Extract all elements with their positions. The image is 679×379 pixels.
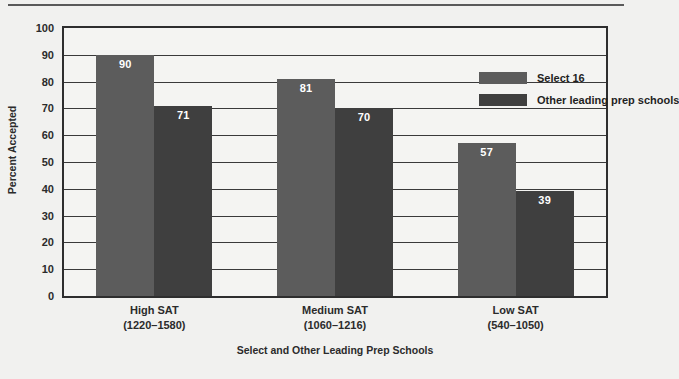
bar-value-label: 90 xyxy=(96,58,154,70)
bar: 70 xyxy=(335,108,393,296)
x-axis-category-label: High SAT(1220–1580) xyxy=(64,303,245,333)
x-axis-category-label: Low SAT(540–1050) xyxy=(425,303,606,333)
y-axis-tick-label: 0 xyxy=(48,290,54,302)
legend-label: Other leading prep schools xyxy=(537,94,679,106)
legend-item: Select 16 xyxy=(479,69,669,86)
category-sublabel: (1220–1580) xyxy=(64,318,245,333)
y-axis-tick-label: 80 xyxy=(42,76,54,88)
bar: 71 xyxy=(154,106,212,296)
category-name: High SAT xyxy=(130,304,179,316)
legend-item: Other leading prep schools xyxy=(479,91,669,108)
y-axis-tick-label: 50 xyxy=(42,156,54,168)
category-sublabel: (1060–1216) xyxy=(245,318,426,333)
y-axis-tick-label: 100 xyxy=(36,22,54,34)
legend-label: Select 16 xyxy=(537,72,585,84)
y-axis-title: Percent Accepted xyxy=(6,90,18,210)
bar: 39 xyxy=(516,191,574,296)
y-axis-tick-label: 20 xyxy=(42,236,54,248)
bar-value-label: 81 xyxy=(277,82,335,94)
x-axis-category-labels: High SAT(1220–1580)Medium SAT(1060–1216)… xyxy=(62,303,608,343)
bar-value-label: 39 xyxy=(516,194,574,206)
bar-value-label: 71 xyxy=(154,109,212,121)
category-name: Medium SAT xyxy=(302,304,368,316)
category-sublabel: (540–1050) xyxy=(425,318,606,333)
y-axis-tick-label: 90 xyxy=(42,49,54,61)
x-axis-category-label: Medium SAT(1060–1216) xyxy=(245,303,426,333)
y-axis-tick-label: 40 xyxy=(42,183,54,195)
bar-value-label: 57 xyxy=(458,146,516,158)
legend-color-swatch xyxy=(479,72,527,84)
bar-group: 9071 xyxy=(64,28,245,296)
y-axis-tick-label: 70 xyxy=(42,102,54,114)
legend-color-swatch xyxy=(479,94,527,106)
bar: 81 xyxy=(277,79,335,296)
y-axis-tick-label: 60 xyxy=(42,129,54,141)
bar: 90 xyxy=(96,55,154,296)
chart-legend: Select 16Other leading prep schools xyxy=(479,69,669,113)
plot-area: 907181705739 Select 16Other leading prep… xyxy=(62,26,608,298)
y-axis: Percent Accepted 1009080706050403020100 xyxy=(0,26,62,298)
bar-value-label: 70 xyxy=(335,111,393,123)
bar-group: 8170 xyxy=(245,28,426,296)
y-axis-tick-label: 10 xyxy=(42,263,54,275)
y-axis-tick-label: 30 xyxy=(42,210,54,222)
bar: 57 xyxy=(458,143,516,296)
x-axis-title: Select and Other Leading Prep Schools xyxy=(62,344,608,356)
category-name: Low SAT xyxy=(493,304,539,316)
